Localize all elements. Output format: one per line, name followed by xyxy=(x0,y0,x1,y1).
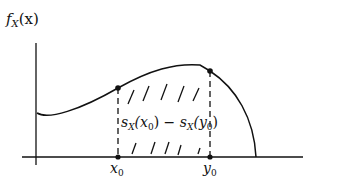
y0-label: y0 xyxy=(202,160,217,178)
density-diagram: fX(x) sX(x0) − sX(y0) x0 y0 xyxy=(0,0,341,183)
x0-axis-point xyxy=(115,154,120,159)
y0-axis-point xyxy=(207,154,212,159)
x0-curve-point xyxy=(115,85,121,91)
region-label: sX(x0) − sX(y0) xyxy=(121,114,218,132)
y0-curve-point xyxy=(207,68,213,74)
x0-label: x0 xyxy=(110,160,124,178)
density-curve xyxy=(37,65,256,157)
y-axis-label: fX(x) xyxy=(5,10,39,29)
hatch-marks-lower xyxy=(132,142,200,155)
hatch-marks-upper xyxy=(128,84,199,104)
